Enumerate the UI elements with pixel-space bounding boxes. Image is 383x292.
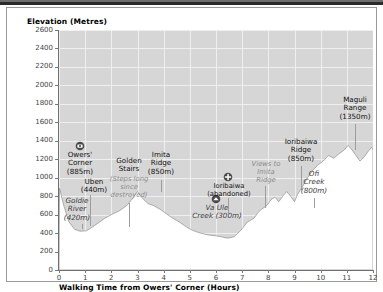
y-tick-mark: [55, 67, 58, 68]
y-tick-mark: [55, 233, 58, 234]
goldie-river-leader-line: [82, 224, 83, 229]
y-tick-mark: [55, 252, 58, 253]
camera-marker-icon: [75, 141, 84, 150]
ioribaiwa-line1: Ioribaiwa: [214, 182, 245, 190]
golden-stairs-leader-line: [129, 203, 130, 227]
golden-stairs-sub-line3: destroyed): [111, 191, 148, 199]
x-tick-mark: [242, 270, 243, 273]
annotation-imita-ridge: Imita Ridge (850m): [138, 151, 184, 176]
x-tick-mark: [164, 270, 165, 273]
va-ule-line2: Creek (300m): [192, 211, 242, 220]
x-tick-label: 4: [154, 275, 174, 282]
ofi-creek-leader-line: [314, 198, 315, 208]
y-tick-label: 2600: [7, 27, 53, 34]
y-tick-mark: [55, 122, 58, 123]
y-tick-label: 1200: [7, 156, 53, 163]
x-tick-label: 9: [285, 275, 305, 282]
cross-marker-icon-ioribaiwa: [223, 172, 232, 181]
x-tick-label: 2: [101, 275, 121, 282]
x-tick-mark: [216, 270, 217, 273]
views-leader-line: [265, 186, 266, 208]
goldie-river-line3: (420m): [64, 213, 90, 222]
x-tick-label: 10: [311, 275, 331, 282]
x-axis-title: Walking Time from Owers' Corner (Hours): [59, 283, 240, 292]
y-axis-title: Elevation (Metres): [27, 17, 107, 26]
annotation-views-to-imita-ridge: Views to Imita Ridge: [245, 160, 287, 184]
y-tick-label: 1800: [7, 100, 53, 107]
y-tick-label: 1400: [7, 137, 53, 144]
y-tick-mark: [55, 48, 58, 49]
y-tick-label: 2400: [7, 45, 53, 52]
golden-stairs-line2: Stairs: [119, 164, 139, 173]
y-tick-mark: [55, 178, 58, 179]
views-line3: Ridge: [256, 176, 275, 184]
truncated-header-sliver: [0, 0, 383, 2]
ioribaiwa-ridge-line3: (850m): [288, 154, 314, 163]
x-tick-mark: [373, 270, 374, 273]
ofi-creek-line3: (800m): [301, 186, 327, 195]
y-tick-mark: [55, 30, 58, 31]
x-tick-label: 3: [128, 275, 148, 282]
x-tick-mark: [321, 270, 322, 273]
annotation-maguli-range: Maguli Range (1350m): [331, 96, 379, 121]
y-tick-mark: [55, 270, 58, 271]
maguli-leader-line: [355, 124, 356, 150]
x-tick-label: 12: [363, 275, 383, 282]
chart-frame: Elevation (Metres) 020040060080010001200…: [6, 7, 377, 282]
annotation-ofi-creek: Ofi Creek (800m): [295, 170, 333, 195]
y-tick-label: 2200: [7, 63, 53, 70]
y-tick-label: 1000: [7, 174, 53, 181]
golden-stairs-sub-line2: since: [120, 183, 138, 191]
x-tick-label: 5: [180, 275, 200, 282]
x-tick-mark: [59, 270, 60, 273]
x-tick-mark: [347, 270, 348, 273]
annotation-va-ule-creek: Va Ule Creek (300m): [189, 204, 245, 221]
y-tick-label: 2000: [7, 82, 53, 89]
y-tick-label: 800: [7, 193, 53, 200]
x-tick-mark: [111, 270, 112, 273]
y-tick-mark: [55, 104, 58, 105]
ioribaiwa-line2: (abandoned): [207, 190, 251, 198]
y-tick-label: 600: [7, 211, 53, 218]
owers-corner-line3: (885m): [67, 167, 93, 176]
y-tick-label: 1600: [7, 119, 53, 126]
x-tick-mark: [190, 270, 191, 273]
x-tick-mark: [268, 270, 269, 273]
x-tick-mark: [85, 270, 86, 273]
ioribaiwa-leader-line: [228, 198, 229, 214]
maguli-line3: (1350m): [340, 112, 371, 121]
annotation-ioribaiwa-ridge: Ioribaiwa Ridge (850m): [274, 138, 328, 163]
x-tick-label: 0: [49, 275, 69, 282]
annotation-owers-corner: Owers' Corner (885m): [53, 151, 107, 176]
x-tick-label: 6: [206, 275, 226, 282]
x-tick-mark: [138, 270, 139, 273]
x-tick-label: 8: [258, 275, 278, 282]
imita-ridge-leader-line: [161, 180, 162, 192]
x-tick-mark: [295, 270, 296, 273]
imita-ridge-line3: (850m): [148, 167, 174, 176]
x-tick-label: 7: [232, 275, 252, 282]
annotation-goldie-river: Goldie River (420m): [55, 197, 99, 222]
annotation-ioribaiwa: Ioribaiwa (abandoned): [203, 182, 255, 198]
y-tick-label: 400: [7, 230, 53, 237]
x-tick-label: 1: [75, 275, 95, 282]
y-tick-label: 200: [7, 248, 53, 255]
y-tick-mark: [55, 141, 58, 142]
annotation-golden-stairs-sub: (Steps long since destroyed): [101, 175, 157, 199]
x-tick-label: 11: [337, 275, 357, 282]
y-tick-mark: [55, 85, 58, 86]
views-line2: Imita: [257, 168, 274, 176]
y-tick-label: 0: [7, 267, 53, 274]
